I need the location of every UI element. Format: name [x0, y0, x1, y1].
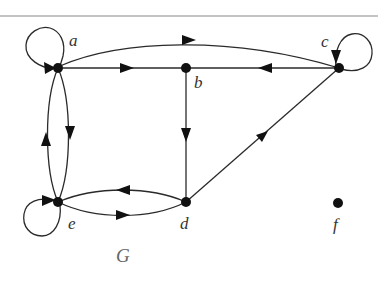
vertex-label-e: e	[68, 214, 76, 233]
vertex-label-c: c	[321, 32, 329, 51]
graph-name-label: G	[116, 245, 130, 266]
vertex-d	[181, 197, 191, 207]
vertex-label-a: a	[69, 31, 78, 50]
edge-a-b	[58, 63, 186, 73]
edge-c-b	[186, 63, 339, 73]
edge-d-e	[58, 185, 186, 202]
arrowhead-icon	[181, 128, 191, 142]
vertex-b	[181, 63, 191, 73]
graph-diagram: a b c d e f G	[0, 0, 382, 285]
vertex-label-d: d	[180, 214, 189, 233]
edge-d-c	[186, 68, 339, 202]
arrowhead-icon	[182, 35, 196, 45]
edge-a-c	[60, 35, 339, 68]
edge-b-d	[181, 68, 191, 202]
edge-a-e	[58, 68, 75, 202]
arrowhead-icon	[65, 126, 75, 140]
arrowhead-icon	[116, 185, 130, 195]
arrowhead-icon	[258, 63, 272, 73]
edge-e-d	[58, 202, 186, 220]
vertex-c	[334, 63, 344, 73]
arrowhead-icon	[256, 131, 268, 142]
arrowhead-icon	[120, 63, 134, 73]
vertex-label-f: f	[333, 215, 340, 234]
vertex-label-b: b	[194, 73, 203, 92]
arrowhead-icon	[41, 132, 51, 146]
vertex-f	[333, 198, 343, 208]
vertex-e	[53, 197, 63, 207]
arrowhead-icon	[116, 210, 130, 220]
edge-e-a	[41, 68, 58, 202]
arrowhead-icon	[331, 50, 341, 64]
vertex-a	[53, 63, 63, 73]
